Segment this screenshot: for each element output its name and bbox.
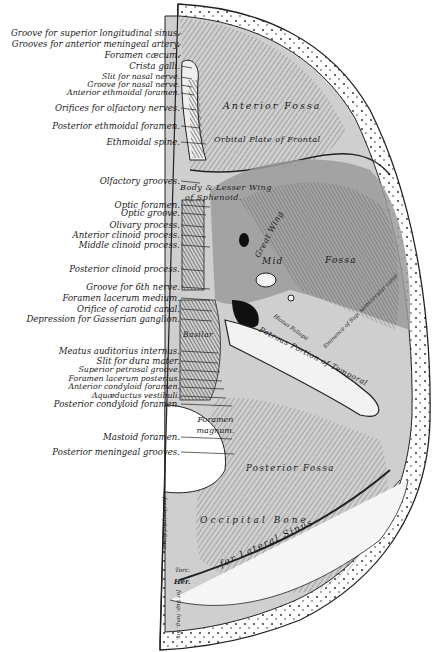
label-basilar: Basilar — [183, 330, 213, 339]
callout-label: Olfactory grooves. — [100, 176, 180, 186]
skull-base-illustration — [0, 0, 435, 652]
callout-label: Groove for 6th nerve. — [86, 282, 180, 292]
label-herophili: Her. — [174, 577, 191, 586]
label-of-sphenoid: of Sphenoid. — [185, 193, 242, 202]
callout-label: Anterior ethmoidal foramen. — [67, 88, 180, 98]
label-orbital-plate: Orbital Plate of Frontal — [214, 135, 321, 144]
callout-label: Ethmoidal spine. — [107, 137, 180, 147]
label-body-lesser-wing: Body & Lesser Wing — [180, 183, 272, 192]
foramen-rotundum — [239, 233, 249, 247]
label-torcular: Torc. — [175, 566, 190, 573]
callout-label: Posterior ethmoidal foramen. — [52, 121, 180, 131]
callout-label: Olivary process. — [110, 220, 180, 230]
callout-label: Orifice of carotid canal. — [77, 304, 180, 314]
foramen-ovale — [256, 273, 276, 287]
callout-label: Posterior meningeal grooves. — [52, 447, 180, 457]
callout-label: Orifices for olfactory nerves. — [55, 103, 180, 113]
callout-label: Foramen lacerum medium. — [62, 293, 180, 303]
callout-label: Posterior clinoid process. — [69, 264, 180, 274]
callout-label: Foramen cæcum. — [104, 50, 180, 60]
label-occipital-sinus: for Occipital Sinus — [162, 497, 168, 549]
foramen-spinosum — [288, 295, 294, 301]
label-posterior-fossa: Posterior Fossa — [246, 463, 335, 473]
callout-label: Middle clinoid process. — [79, 240, 180, 250]
callout-label: Crista galli. — [129, 61, 180, 71]
callout-label: Optic groove. — [121, 208, 180, 218]
basilar-process — [180, 300, 220, 400]
callout-label: Meatus auditorius internus. — [59, 346, 180, 356]
label-middle-fossa-1: Mid — [262, 256, 283, 266]
callout-label: Groove for superior longitudinal sinus. — [11, 28, 180, 38]
callout-label: Anterior clinoid process. — [73, 230, 180, 240]
label-anterior-fossa: Anterior Fossa — [223, 100, 322, 111]
label-occipital-bone: Occipital Bone — [200, 515, 309, 525]
callout-label: Mastoid foramen. — [103, 432, 180, 442]
label-sup-long-sinus: for Sup. long. Sin. — [176, 590, 182, 641]
callout-label: Grooves for anterior meningeal artery. — [12, 39, 180, 49]
callout-label: Depression for Gasserian ganglion. — [26, 314, 180, 324]
callout-label: Posterior condyloid foramen. — [54, 399, 180, 409]
label-foramen-magnum: Foramen magnum. — [193, 414, 238, 436]
label-middle-fossa-2: Fossa — [325, 255, 357, 265]
